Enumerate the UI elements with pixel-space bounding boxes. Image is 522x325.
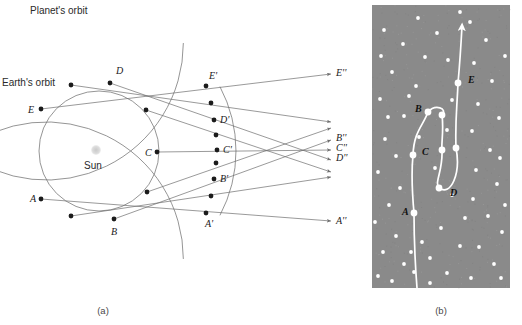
grain-pixel: [389, 106, 390, 107]
grain-pixel: [482, 37, 483, 38]
grain-pixel: [379, 215, 380, 216]
grain-pixel: [482, 32, 483, 33]
grain-pixel: [440, 154, 441, 155]
star-15: [390, 279, 394, 283]
grain-pixel: [467, 189, 468, 190]
grain-pixel: [480, 68, 481, 69]
grain-pixel: [483, 228, 484, 229]
grain-pixel: [420, 251, 421, 252]
grain-pixel: [501, 15, 502, 16]
grain-pixel: [373, 29, 374, 30]
grain-pixel: [379, 37, 380, 38]
grain-pixel: [467, 216, 468, 217]
grain-pixel: [431, 199, 432, 200]
star-49: [463, 216, 467, 220]
sight-line-e6: [146, 110, 331, 172]
grain-pixel: [448, 10, 449, 11]
grain-pixel: [376, 162, 377, 163]
grain-pixel: [499, 17, 500, 18]
grain-pixel: [462, 17, 463, 18]
star-54: [503, 203, 507, 207]
grain-pixel: [496, 245, 497, 246]
grain-pixel: [474, 58, 475, 59]
grain-pixel: [449, 114, 450, 115]
grain-pixel: [501, 280, 502, 281]
grain-pixel: [477, 99, 478, 100]
grain-pixel: [395, 12, 396, 13]
star-57: [428, 281, 432, 285]
earth-label-D: D: [115, 65, 124, 76]
grain-pixel: [381, 13, 382, 14]
grain-pixel: [455, 71, 456, 72]
grain-pixel: [462, 131, 463, 132]
grain-pixel: [458, 288, 459, 289]
grain-pixel: [398, 246, 399, 247]
grain-pixel: [443, 85, 444, 86]
grain-pixel: [499, 175, 500, 176]
grain-pixel: [404, 96, 405, 97]
planet-label-B': B': [220, 173, 229, 184]
track-node-n7: [453, 145, 460, 152]
grain-pixel: [419, 86, 420, 87]
grain-pixel: [486, 210, 487, 211]
planet-position-B': [212, 177, 217, 182]
star-40: [471, 197, 475, 201]
grain-pixel: [509, 136, 510, 137]
grain-pixel: [396, 75, 397, 76]
grain-pixel: [459, 206, 460, 207]
grain-pixel: [384, 38, 385, 39]
grain-pixel: [455, 199, 456, 200]
grain-pixel: [507, 130, 508, 131]
grain-pixel: [474, 204, 475, 205]
grain-pixel: [401, 33, 402, 34]
grain-pixel: [480, 267, 481, 268]
figure-canvas: SunABCDEA'B'C'D'E'E''B''C''D''A''Planet'…: [0, 0, 522, 325]
grain-pixel: [453, 256, 454, 257]
grain-pixel: [386, 246, 387, 247]
grain-pixel: [468, 136, 469, 137]
grain-pixel: [418, 210, 419, 211]
sky-label-E'': E'': [335, 67, 347, 78]
grain-pixel: [423, 137, 424, 138]
grain-pixel: [503, 9, 504, 10]
star-56: [379, 54, 383, 58]
grain-pixel: [374, 142, 375, 143]
grain-pixel: [385, 75, 386, 76]
grain-pixel: [449, 180, 450, 181]
grain-pixel: [435, 212, 436, 213]
grain-pixel: [397, 111, 398, 112]
grain-pixel: [499, 70, 500, 71]
grain-pixel: [407, 224, 408, 225]
grain-pixel: [395, 42, 396, 43]
grain-pixel: [497, 213, 498, 214]
grain-pixel: [483, 112, 484, 113]
grain-pixel: [479, 269, 480, 270]
star-47: [458, 10, 462, 14]
grain-pixel: [472, 23, 473, 24]
star-43: [477, 245, 481, 249]
grain-pixel: [411, 209, 412, 210]
grain-pixel: [394, 261, 395, 262]
figure-root: SunABCDEA'B'C'D'E'E''B''C''D''A''Planet'…: [0, 0, 522, 325]
track-node-D: [436, 185, 443, 192]
grain-pixel: [422, 253, 423, 254]
grain-pixel: [418, 52, 419, 53]
grain-pixel: [466, 110, 467, 111]
grain-pixel: [487, 235, 488, 236]
star-38: [474, 168, 478, 172]
grain-pixel: [404, 69, 405, 70]
grain-pixel: [490, 74, 491, 75]
grain-pixel: [493, 126, 494, 127]
grain-pixel: [438, 15, 439, 16]
grain-pixel: [447, 28, 448, 29]
grain-pixel: [507, 103, 508, 104]
grain-pixel: [431, 161, 432, 162]
star-53: [445, 128, 449, 132]
grain-pixel: [413, 74, 414, 75]
grain-pixel: [507, 139, 508, 140]
grain-pixel: [438, 37, 439, 38]
grain-pixel: [469, 219, 470, 220]
grain-pixel: [385, 223, 386, 224]
grain-pixel: [429, 34, 430, 35]
grain-pixel: [460, 8, 461, 9]
